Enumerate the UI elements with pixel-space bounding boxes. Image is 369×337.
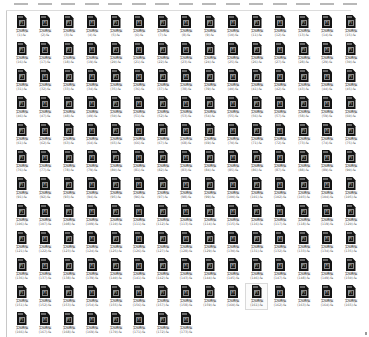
file-item[interactable]: Fl 实验数据 (141).fa — [128, 256, 151, 283]
file-item[interactable]: Fl 实验数据 (173).fa — [175, 310, 198, 337]
file-item[interactable]: Fl 实验数据 (81).fa — [128, 148, 151, 175]
file-item[interactable]: Fl 实验数据 (51).fa — [128, 94, 151, 121]
file-item[interactable]: Fl 实验数据 (54).fa — [198, 94, 221, 121]
file-item[interactable]: Fl 实验数据 (137).fa — [34, 256, 57, 283]
file-item[interactable]: Fl 实验数据 (149).fa — [316, 256, 339, 283]
file-item[interactable]: Fl 实验数据 (121).fa — [10, 229, 33, 256]
file-item[interactable]: Fl 实验数据 (94).fa — [81, 175, 104, 202]
file-item[interactable]: Fl 实验数据 (16).fa — [10, 40, 33, 67]
file-item[interactable]: Fl 实验数据 (123).fa — [57, 229, 80, 256]
file-item[interactable]: Fl 实验数据 (55).fa — [222, 94, 245, 121]
file-item[interactable]: Fl 实验数据 (107).fa — [34, 202, 57, 229]
file-item[interactable]: Fl 实验数据 (62).fa — [34, 121, 57, 148]
file-item[interactable]: Fl 实验数据 (66).fa — [128, 121, 151, 148]
file-item[interactable]: Fl 实验数据 (128).fa — [175, 229, 198, 256]
file-item[interactable]: Fl 实验数据 (101).fa — [245, 175, 268, 202]
file-item[interactable]: Fl 实验数据 (37).fa — [151, 67, 174, 94]
file-item[interactable]: Fl 实验数据 (162).fa — [269, 283, 292, 310]
file-item[interactable]: Fl 实验数据 (58).fa — [292, 94, 315, 121]
file-item[interactable]: Fl 实验数据 (112).fa — [151, 202, 174, 229]
file-item[interactable]: Fl 实验数据 (5).fa — [104, 13, 127, 40]
file-item[interactable]: Fl 实验数据 (109).fa — [81, 202, 104, 229]
file-item[interactable]: Fl 实验数据 (42).fa — [269, 67, 292, 94]
file-item[interactable]: Fl 实验数据 (98).fa — [175, 175, 198, 202]
file-item[interactable]: Fl 实验数据 (21).fa — [128, 40, 151, 67]
file-item[interactable]: Fl 实验数据 (146).fa — [245, 256, 268, 283]
file-item[interactable]: Fl 实验数据 (89).fa — [316, 148, 339, 175]
file-item[interactable]: Fl 实验数据 (80).fa — [104, 148, 127, 175]
file-item[interactable]: Fl 实验数据 (90).fa — [339, 148, 362, 175]
file-item[interactable]: Fl 实验数据 (157).fa — [151, 283, 174, 310]
file-item[interactable]: Fl 实验数据 (138).fa — [57, 256, 80, 283]
file-item[interactable]: Fl 实验数据 (68).fa — [175, 121, 198, 148]
file-item[interactable]: Fl 实验数据 (67).fa — [151, 121, 174, 148]
file-item[interactable]: Fl 实验数据 (124).fa — [81, 229, 104, 256]
file-item[interactable]: Fl 实验数据 (171).fa — [128, 310, 151, 337]
file-item[interactable]: Fl 实验数据 (32).fa — [34, 67, 57, 94]
file-item[interactable]: Fl 实验数据 (126).fa — [128, 229, 151, 256]
file-item[interactable]: Fl 实验数据 (30).fa — [339, 40, 362, 67]
file-item[interactable]: Fl 实验数据 (27).fa — [269, 40, 292, 67]
file-item[interactable]: Fl 实验数据 (122).fa — [34, 229, 57, 256]
file-item[interactable]: Fl 实验数据 (166).fa — [10, 310, 33, 337]
file-item[interactable]: Fl 实验数据 (17).fa — [34, 40, 57, 67]
file-item[interactable]: Fl 实验数据 (135).fa — [339, 229, 362, 256]
file-item[interactable]: Fl 实验数据 (86).fa — [245, 148, 268, 175]
file-item[interactable]: Fl 实验数据 (45).fa — [339, 67, 362, 94]
file-item[interactable]: Fl 实验数据 (159).fa — [198, 283, 221, 310]
file-item[interactable]: Fl 实验数据 (152).fa — [34, 283, 57, 310]
file-item[interactable]: Fl 实验数据 (148).fa — [292, 256, 315, 283]
file-item[interactable]: Fl 实验数据 (153).fa — [57, 283, 80, 310]
file-item[interactable]: Fl 实验数据 (64).fa — [81, 121, 104, 148]
file-item[interactable]: Fl 实验数据 (104).fa — [316, 175, 339, 202]
file-item[interactable]: Fl 实验数据 (88).fa — [292, 148, 315, 175]
file-item[interactable]: Fl 实验数据 (34).fa — [81, 67, 104, 94]
file-item[interactable]: Fl 实验数据 (29).fa — [316, 40, 339, 67]
file-item[interactable]: Fl 实验数据 (79).fa — [81, 148, 104, 175]
scroll-thumb[interactable] — [365, 332, 367, 335]
file-item[interactable]: Fl 实验数据 (130).fa — [222, 229, 245, 256]
file-item[interactable]: Fl 实验数据 (150).fa — [339, 256, 362, 283]
file-item[interactable]: Fl 实验数据 (57).fa — [269, 94, 292, 121]
file-item[interactable]: Fl 实验数据 (110).fa — [104, 202, 127, 229]
file-item[interactable]: Fl 实验数据 (113).fa — [175, 202, 198, 229]
file-item[interactable]: Fl 实验数据 (33).fa — [57, 67, 80, 94]
file-item[interactable]: Fl 实验数据 (167).fa — [34, 310, 57, 337]
file-item[interactable]: Fl 实验数据 (40).fa — [222, 67, 245, 94]
file-item[interactable]: Fl 实验数据 (74).fa — [316, 121, 339, 148]
file-item[interactable]: Fl 实验数据 (44).fa — [316, 67, 339, 94]
file-item[interactable]: Fl 实验数据 (147).fa — [269, 256, 292, 283]
file-item[interactable]: Fl 实验数据 (31).fa — [10, 67, 33, 94]
file-item[interactable]: Fl 实验数据 (96).fa — [128, 175, 151, 202]
file-item[interactable]: Fl 实验数据 (3).fa — [57, 13, 80, 40]
file-item[interactable]: Fl 实验数据 (83).fa — [175, 148, 198, 175]
file-item[interactable]: Fl 实验数据 (25).fa — [222, 40, 245, 67]
file-item[interactable]: Fl 实验数据 (28).fa — [292, 40, 315, 67]
file-item[interactable]: Fl 实验数据 (125).fa — [104, 229, 127, 256]
file-item[interactable]: Fl 实验数据 (53).fa — [175, 94, 198, 121]
file-item[interactable]: Fl 实验数据 (61).fa — [10, 121, 33, 148]
file-item[interactable]: Fl 实验数据 (38).fa — [175, 67, 198, 94]
file-item[interactable]: Fl 实验数据 (15).fa — [339, 13, 362, 40]
file-item[interactable]: Fl 实验数据 (139).fa — [81, 256, 104, 283]
file-item[interactable]: Fl 实验数据 (48).fa — [57, 94, 80, 121]
file-item[interactable]: Fl 实验数据 (169).fa — [81, 310, 104, 337]
file-item[interactable]: Fl 实验数据 (4).fa — [81, 13, 104, 40]
file-item[interactable]: Fl 实验数据 (84).fa — [198, 148, 221, 175]
file-item[interactable]: Fl 实验数据 (164).fa — [316, 283, 339, 310]
file-item[interactable]: Fl 实验数据 (140).fa — [104, 256, 127, 283]
file-item[interactable]: Fl 实验数据 (9).fa — [198, 13, 221, 40]
file-item[interactable]: Fl 实验数据 (117).fa — [269, 202, 292, 229]
file-item[interactable]: Fl 实验数据 (85).fa — [222, 148, 245, 175]
file-item[interactable]: Fl 实验数据 (116).fa — [245, 202, 268, 229]
file-item[interactable]: Fl 实验数据 (75).fa — [339, 121, 362, 148]
file-item[interactable]: Fl 实验数据 (95).fa — [104, 175, 127, 202]
file-item[interactable]: Fl 实验数据 (114).fa — [198, 202, 221, 229]
file-item[interactable]: Fl 实验数据 (70).fa — [222, 121, 245, 148]
file-item[interactable]: Fl 实验数据 (103).fa — [292, 175, 315, 202]
file-item[interactable]: Fl 实验数据 (56).fa — [245, 94, 268, 121]
file-item[interactable]: Fl 实验数据 (119).fa — [316, 202, 339, 229]
file-item[interactable]: Fl 实验数据 (163).fa — [292, 283, 315, 310]
file-item[interactable]: Fl 实验数据 (26).fa — [245, 40, 268, 67]
file-item[interactable]: Fl 实验数据 (168).fa — [57, 310, 80, 337]
